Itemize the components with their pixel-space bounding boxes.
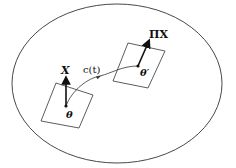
diagram-canvas: X ΠX c(t) θ θ′ [0, 0, 236, 168]
point-theta [64, 104, 67, 107]
label-vector-pi-x-text: ΠX [149, 28, 168, 41]
label-curve: c(t) [83, 64, 101, 75]
diagram-svg: X ΠX c(t) θ θ′ [0, 0, 236, 168]
label-vector-x: X [60, 64, 70, 77]
label-vector-pi-x: ΠX [149, 28, 168, 41]
manifold-ellipse [12, 4, 222, 163]
label-theta-prime: θ′ [140, 67, 150, 78]
label-theta: θ [66, 109, 73, 120]
curve-arrowhead-icon [96, 76, 101, 79]
